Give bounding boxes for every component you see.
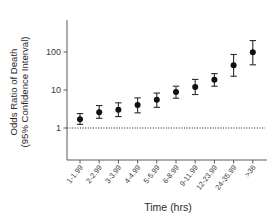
axes-group xyxy=(64,20,268,164)
x-tick-label: 4-4.99 xyxy=(122,163,142,185)
y-tick-label: 10 xyxy=(51,85,61,95)
data-point-group xyxy=(211,74,217,87)
x-tick-label: 1-1.99 xyxy=(65,163,85,185)
odds-ratio-marker xyxy=(154,97,160,103)
x-tick-label: >36 xyxy=(243,163,258,178)
odds-ratio-marker xyxy=(192,84,198,90)
x-axis-title: Time (hrs) xyxy=(144,201,191,213)
chart-canvas: 110100 1-1.992-2.993-3.994-4.995-5.996-8… xyxy=(0,0,273,217)
odds-ratio-marker xyxy=(211,77,217,83)
odds-ratio-marker xyxy=(77,116,83,122)
odds-ratio-marker xyxy=(231,62,237,68)
y-axis-title-line2: (95% Confidence Interval) xyxy=(19,37,30,148)
data-points-group xyxy=(77,41,256,125)
y-tick-label: 1 xyxy=(56,123,61,133)
data-point-group xyxy=(115,103,121,117)
data-point-group xyxy=(230,54,236,76)
x-tick-label: 5-5.99 xyxy=(142,163,162,185)
data-point-group xyxy=(192,79,198,94)
odds-ratio-marker xyxy=(173,89,179,95)
data-point-group xyxy=(173,86,179,98)
odds-ratio-marker xyxy=(250,49,256,55)
odds-ratio-marker xyxy=(135,102,141,108)
odds-ratio-marker xyxy=(96,109,102,115)
y-axis-title-line1: Odds Ratio of Death xyxy=(8,49,19,136)
x-tick-label: 2-2.99 xyxy=(84,163,104,185)
data-point-group xyxy=(96,106,102,119)
y-tick-label: 100 xyxy=(46,47,61,57)
x-tick-label: 3-3.99 xyxy=(103,163,123,185)
data-point-group xyxy=(77,114,83,125)
data-point-group xyxy=(134,98,140,113)
data-point-group xyxy=(250,41,256,65)
x-tick-labels-group: 1-1.992-2.993-3.994-4.995-5.996-8.999-11… xyxy=(65,163,258,192)
odds-ratio-marker xyxy=(115,107,121,113)
y-tick-labels-group: 110100 xyxy=(46,47,61,133)
chart-figure: 110100 1-1.992-2.993-3.994-4.995-5.996-8… xyxy=(0,0,273,217)
data-point-group xyxy=(154,93,160,107)
